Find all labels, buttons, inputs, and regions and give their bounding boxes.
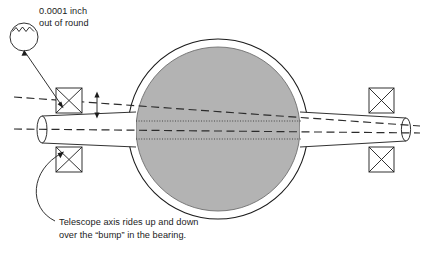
callout-line-2: out of round: [39, 18, 89, 30]
diagram-root: 0.0001 inch out of round Telescope axis …: [0, 0, 423, 259]
bearing-lower-right: [369, 147, 394, 172]
shaft-right-end-cap: [401, 118, 410, 141]
bearing-upper-left: [56, 88, 82, 113]
callout-line-1: 0.0001 inch: [39, 6, 89, 18]
out-of-round-callout: 0.0001 inch out of round: [39, 6, 89, 29]
shaft-right-section: [300, 112, 411, 147]
caption-line-2: over the “bump” in the bearing.: [59, 229, 199, 242]
telescope-tube-body: [136, 47, 300, 211]
bearing-bump-caption: Telescope axis rides up and down over th…: [59, 216, 199, 241]
caption-line-1: Telescope axis rides up and down: [59, 216, 199, 229]
detail-circle: [10, 23, 38, 51]
bearing-upper-right: [369, 88, 394, 113]
bearing-lower-left: [56, 147, 82, 172]
